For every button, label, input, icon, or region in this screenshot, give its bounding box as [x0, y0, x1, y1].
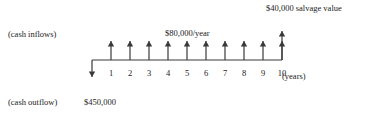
axis-tick-label: 9	[261, 68, 265, 78]
axis-tick-label: 2	[128, 68, 132, 78]
axis-tick-label: 7	[223, 68, 227, 78]
axis-tick-label: 1	[109, 68, 113, 78]
cash-flow-diagram: $40,000 salvage value (cash inflows) $80…	[0, 0, 367, 119]
axis-tick-label: 8	[242, 68, 246, 78]
axis-tick-label: 4	[166, 68, 171, 78]
axis-tick-label: 6	[204, 68, 208, 78]
axis-tick-label: 10	[278, 68, 287, 78]
axis-tick-label: 3	[147, 68, 151, 78]
timeline-graphic: 12345678910	[0, 0, 367, 119]
axis-tick-label: 5	[185, 68, 189, 78]
